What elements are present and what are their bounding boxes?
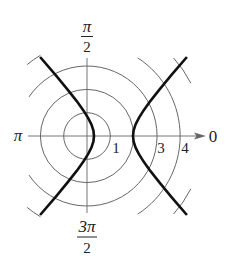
grid-arc-r4-upper-left	[27, 55, 40, 64]
grid-arc-r4-lower-left	[27, 207, 40, 216]
polar-graph: π 2 3π 2 π 0 1 3 4	[0, 0, 236, 275]
pi-over-2-numerator: π	[83, 17, 92, 36]
pi-over-2-denominator: 2	[83, 39, 91, 55]
axes	[28, 58, 206, 213]
three-pi-over-2-denominator: 2	[83, 240, 91, 256]
angle-label-3pi-over-2: 3π 2	[77, 217, 97, 256]
angle-label-zero: 0	[209, 127, 218, 146]
angle-label-pi: π	[14, 126, 23, 145]
radius-label-4: 4	[181, 140, 189, 156]
radius-label-3: 3	[157, 140, 165, 156]
radius-label-1: 1	[112, 140, 120, 156]
angle-label-pi-over-2: π 2	[81, 17, 93, 55]
three-pi-over-2-numerator: 3π	[77, 217, 96, 236]
